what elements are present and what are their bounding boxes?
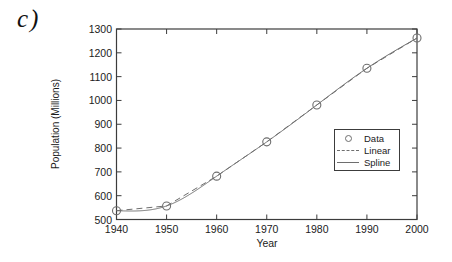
legend-item-data: Data [335, 132, 399, 144]
y-tick-label: 900 [74, 118, 112, 130]
plot-border [117, 29, 418, 220]
legend: Data Linear Spline [334, 129, 400, 171]
y-tick-label: 1300 [74, 23, 112, 35]
linear-interp-line [117, 38, 418, 211]
legend-label-linear: Linear [364, 145, 390, 156]
x-tick-label: 1990 [345, 223, 389, 235]
y-tick-label: 1000 [74, 94, 112, 106]
y-tick-label: 800 [74, 142, 112, 154]
linear-dashed-line-icon [337, 150, 359, 151]
x-tick-label: 1980 [295, 223, 339, 235]
spline-curve [117, 38, 418, 211]
y-tick-label: 700 [74, 166, 112, 178]
y-axis-title: Population (Millions) [50, 54, 64, 194]
y-tick-label: 600 [74, 190, 112, 202]
x-tick-label: 1960 [195, 223, 239, 235]
spline-solid-line-icon [337, 162, 359, 163]
y-tick-label: 500 [74, 214, 112, 226]
x-tick-label: 1970 [245, 223, 289, 235]
figure-panel-c: c) Year Population (Millions) Data Linea… [0, 0, 452, 262]
legend-label-spline: Spline [364, 157, 390, 168]
x-axis-title: Year [217, 237, 317, 249]
y-tick-label: 1100 [74, 71, 112, 83]
x-tick-label: 1950 [145, 223, 189, 235]
x-tick-label: 2000 [395, 223, 439, 235]
data-circle-marker-icon [345, 135, 352, 142]
legend-item-linear: Linear [335, 144, 399, 156]
legend-label-data: Data [364, 133, 384, 144]
legend-item-spline: Spline [335, 156, 399, 168]
y-tick-label: 1200 [74, 47, 112, 59]
